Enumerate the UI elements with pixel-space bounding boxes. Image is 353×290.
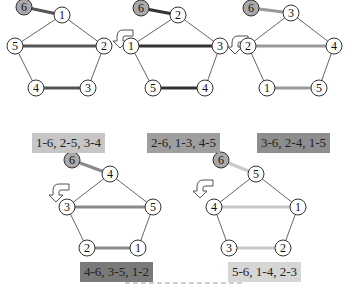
panel-3-pairing-label: 3-6, 2-4, 1-5 <box>257 133 330 153</box>
svg-text:3: 3 <box>64 200 70 214</box>
node-bottom-right: 2 <box>275 240 291 256</box>
figure-caption <box>125 281 245 286</box>
svg-text:3: 3 <box>288 6 294 20</box>
panel-5: 654132 <box>193 152 306 256</box>
node-top: 1 <box>54 7 70 23</box>
node-right: 4 <box>326 38 342 54</box>
node-bottom-right: 4 <box>197 80 213 96</box>
node-fixed: 6 <box>64 152 80 168</box>
svg-text:1: 1 <box>128 39 134 53</box>
panel-1-pairing-label: 1-6, 2-5, 3-4 <box>32 133 105 153</box>
svg-text:4: 4 <box>211 200 217 214</box>
node-left: 4 <box>206 199 222 215</box>
node-left: 1 <box>123 38 139 54</box>
svg-text:2: 2 <box>101 39 107 53</box>
svg-text:2: 2 <box>245 39 251 53</box>
node-top: 2 <box>170 7 186 23</box>
svg-text:1: 1 <box>295 200 301 214</box>
node-top: 4 <box>102 166 118 182</box>
svg-text:2: 2 <box>280 241 286 255</box>
panel-2: 621354 <box>113 0 228 96</box>
svg-text:5: 5 <box>253 167 259 181</box>
svg-text:3: 3 <box>85 81 91 95</box>
node-fixed: 6 <box>243 0 259 16</box>
node-fixed: 6 <box>133 0 149 16</box>
svg-text:5: 5 <box>316 81 322 95</box>
node-right: 5 <box>145 199 161 215</box>
node-bottom-left: 3 <box>221 240 237 256</box>
svg-text:5: 5 <box>12 39 18 53</box>
svg-text:3: 3 <box>217 39 223 53</box>
node-bottom-left: 2 <box>79 240 95 256</box>
svg-text:5: 5 <box>150 81 156 95</box>
node-fixed: 6 <box>213 152 229 168</box>
svg-text:6: 6 <box>138 1 144 15</box>
svg-text:2: 2 <box>175 8 181 22</box>
svg-text:4: 4 <box>331 39 337 53</box>
svg-text:6: 6 <box>248 1 254 15</box>
node-right: 3 <box>212 38 228 54</box>
svg-text:3: 3 <box>226 241 232 255</box>
svg-text:4: 4 <box>202 81 208 95</box>
svg-text:6: 6 <box>69 153 75 167</box>
node-bottom-left: 1 <box>259 80 275 96</box>
node-bottom-right: 3 <box>80 80 96 96</box>
node-left: 3 <box>59 199 75 215</box>
node-left: 5 <box>7 38 23 54</box>
node-top: 5 <box>248 166 264 182</box>
svg-text:6: 6 <box>21 0 27 14</box>
node-bottom-left: 4 <box>28 80 44 96</box>
rotate-arrow-icon <box>193 180 213 198</box>
panel-4: 643521 <box>49 152 161 256</box>
node-right: 2 <box>96 38 112 54</box>
svg-text:4: 4 <box>33 81 39 95</box>
node-fixed: 6 <box>16 0 32 15</box>
panel-4-pairing-label: 4-6, 3-5, 1-2 <box>80 262 153 282</box>
node-right: 1 <box>290 199 306 215</box>
svg-text:2: 2 <box>84 241 90 255</box>
svg-text:4: 4 <box>107 167 113 181</box>
node-left: 2 <box>240 38 256 54</box>
node-bottom-right: 5 <box>311 80 327 96</box>
svg-text:5: 5 <box>150 200 156 214</box>
panel-3: 632415 <box>228 0 342 96</box>
node-top: 3 <box>283 5 299 21</box>
node-bottom-right: 1 <box>130 240 146 256</box>
svg-text:1: 1 <box>59 8 65 22</box>
panel-2-pairing-label: 2-6, 1-3, 4-5 <box>147 133 220 153</box>
svg-text:6: 6 <box>218 153 224 167</box>
svg-text:1: 1 <box>264 81 270 95</box>
node-bottom-left: 5 <box>145 80 161 96</box>
panel-1: 615243 <box>7 0 112 96</box>
panel-5-pairing-label: 5-6, 1-4, 2-3 <box>228 262 301 282</box>
svg-text:1: 1 <box>135 241 141 255</box>
